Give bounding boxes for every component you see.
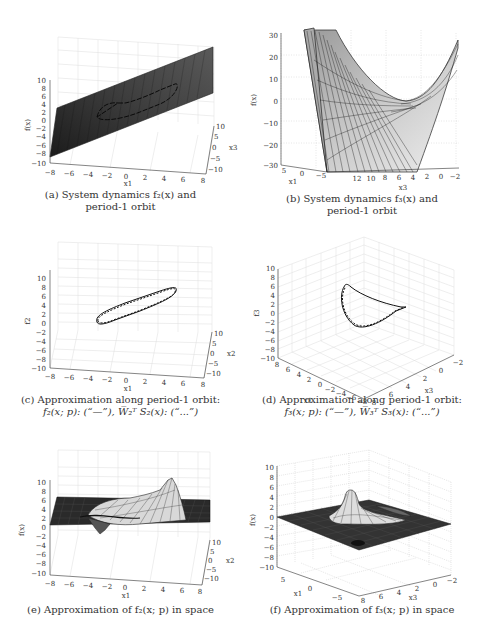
z-axis-label: f(x) <box>18 524 26 536</box>
svg-text:0: 0 <box>123 584 127 592</box>
svg-text:2: 2 <box>271 301 275 309</box>
svg-text:−4: −4 <box>36 133 47 141</box>
svg-text:−2: −2 <box>453 359 463 367</box>
svg-text:−8: −8 <box>45 580 55 588</box>
plot-b-surface: 30 20 10 0 −10 −20 −30 f(x) 5 0 −5 x1 12… <box>241 0 483 215</box>
svg-text:10: 10 <box>37 77 46 85</box>
svg-text:6: 6 <box>181 380 186 388</box>
svg-text:−4: −4 <box>265 328 276 336</box>
svg-text:−2: −2 <box>36 329 46 337</box>
svg-text:10: 10 <box>367 175 376 183</box>
svg-text:20: 20 <box>269 54 278 62</box>
svg-text:0: 0 <box>270 514 274 522</box>
svg-text:6: 6 <box>379 593 384 601</box>
svg-text:−6: −6 <box>36 347 47 355</box>
svg-text:−4: −4 <box>83 582 94 590</box>
svg-text:−2: −2 <box>102 583 112 591</box>
svg-text:10: 10 <box>266 265 275 273</box>
panel-c: 10 8 6 4 2 0 −2 −4 −6 −8 −10 f2 −8 −6 −4… <box>0 215 241 420</box>
svg-text:6: 6 <box>180 587 185 595</box>
svg-text:4: 4 <box>297 371 302 379</box>
svg-text:30: 30 <box>269 32 278 40</box>
svg-text:−6: −6 <box>64 374 75 382</box>
svg-text:0: 0 <box>439 367 443 375</box>
svg-text:−2: −2 <box>325 386 335 394</box>
svg-text:5: 5 <box>210 548 214 556</box>
svg-text:8: 8 <box>271 274 275 282</box>
svg-text:−2: −2 <box>36 533 46 541</box>
svg-text:6: 6 <box>42 497 47 505</box>
panel-d: 10 8 6 4 2 0 −2 −4 −6 −8 −10 f3 8 6 4 2 … <box>241 215 483 420</box>
svg-text:−30: −30 <box>263 162 278 170</box>
y-axis-label: x3 <box>399 184 407 192</box>
svg-text:−2: −2 <box>36 125 46 133</box>
svg-text:0: 0 <box>433 581 437 589</box>
svg-text:0: 0 <box>212 144 216 152</box>
svg-text:2: 2 <box>415 585 419 593</box>
svg-text:−10: −10 <box>206 370 221 378</box>
svg-text:8: 8 <box>42 488 46 496</box>
svg-text:4: 4 <box>271 292 276 300</box>
svg-text:10: 10 <box>212 539 221 547</box>
svg-text:−8: −8 <box>36 150 46 158</box>
svg-text:0: 0 <box>42 320 46 328</box>
svg-text:−2: −2 <box>102 172 112 180</box>
svg-text:6: 6 <box>270 484 275 492</box>
svg-text:8: 8 <box>201 177 205 185</box>
svg-text:−8: −8 <box>265 346 275 354</box>
svg-text:6: 6 <box>286 366 291 374</box>
svg-text:−2: −2 <box>264 524 274 532</box>
svg-text:5: 5 <box>214 133 218 141</box>
svg-text:−10: −10 <box>204 575 219 583</box>
svg-text:10: 10 <box>269 76 278 84</box>
svg-text:4: 4 <box>411 174 416 182</box>
svg-text:8: 8 <box>42 284 46 292</box>
panel-e: 10 8 6 4 2 0 −2 −4 −6 −8 −10 f(x) −8 −6 … <box>0 420 241 630</box>
svg-text:4: 4 <box>406 383 411 391</box>
svg-text:5: 5 <box>281 576 285 584</box>
svg-text:0: 0 <box>124 377 128 385</box>
panel-f: 10 8 6 4 2 0 −2 −4 −6 −8 −10 f(x) 5 0 −5… <box>241 420 483 630</box>
svg-text:−5: −5 <box>208 360 218 368</box>
svg-text:2: 2 <box>42 311 46 319</box>
svg-text:−6: −6 <box>36 142 47 150</box>
svg-text:4: 4 <box>42 101 47 109</box>
x-axis-label: x1 <box>124 385 132 393</box>
svg-text:−10: −10 <box>259 564 274 572</box>
svg-text:−2: −2 <box>102 376 112 384</box>
svg-text:−10: −10 <box>31 160 46 168</box>
svg-text:6: 6 <box>42 93 47 101</box>
caption-c: (c) Approximation along period-1 orbit: … <box>0 394 241 418</box>
svg-text:−5: −5 <box>316 172 326 180</box>
svg-text:0: 0 <box>318 381 322 389</box>
plot-d-orbit: 10 8 6 4 2 0 −2 −4 −6 −8 −10 f3 8 6 4 2 … <box>241 215 483 420</box>
svg-text:0: 0 <box>208 557 212 565</box>
svg-text:−5: −5 <box>332 594 342 602</box>
panel-a: 10 8 6 4 2 0 −2 −4 −6 −8 −10 f(x) −8 −6 … <box>0 0 241 215</box>
x-axis-label: x1 <box>294 590 302 598</box>
svg-text:−4: −4 <box>264 534 275 542</box>
svg-text:−10: −10 <box>263 120 278 128</box>
svg-text:4: 4 <box>162 379 167 387</box>
svg-text:0: 0 <box>300 170 304 178</box>
svg-text:8: 8 <box>383 174 387 182</box>
svg-text:0: 0 <box>439 173 443 181</box>
svg-text:0: 0 <box>271 310 275 318</box>
svg-text:2: 2 <box>143 174 147 182</box>
svg-text:0: 0 <box>42 524 46 532</box>
svg-text:4: 4 <box>161 586 166 594</box>
svg-text:8: 8 <box>275 361 279 369</box>
svg-text:−8: −8 <box>36 560 46 568</box>
svg-text:0: 0 <box>308 585 312 593</box>
caption-d: (d) Approximation along period-1 orbit: … <box>241 394 483 418</box>
x-axis-label: x1 <box>124 180 132 188</box>
caption-e: (e) Approximation of f₂(x; p) in space <box>0 604 241 616</box>
svg-text:−20: −20 <box>263 142 278 150</box>
panel-b: 30 20 10 0 −10 −20 −30 f(x) 5 0 −5 x1 12… <box>241 0 483 215</box>
svg-text:−2: −2 <box>447 577 457 585</box>
z-axis-label: f2 <box>24 317 32 324</box>
svg-text:−10: −10 <box>31 365 46 373</box>
svg-text:−6: −6 <box>264 544 275 552</box>
svg-text:4: 4 <box>42 302 47 310</box>
svg-text:4: 4 <box>270 494 275 502</box>
